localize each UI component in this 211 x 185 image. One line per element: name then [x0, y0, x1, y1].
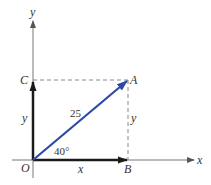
y-axis-label: y	[29, 5, 36, 19]
point-o-label: O	[21, 161, 30, 175]
point-c-label: C	[20, 73, 29, 87]
point-a-label: A	[129, 73, 138, 87]
point-b-label: B	[124, 162, 132, 176]
resultant-vector	[33, 81, 127, 160]
y-component-label-left: y	[21, 111, 28, 125]
x-axis-label: x	[196, 153, 203, 167]
vector-diagram: y x C A O B y y x 25 40°	[0, 0, 211, 185]
x-component-label: x	[77, 162, 84, 176]
y-component-label-right: y	[130, 111, 137, 125]
angle-label: 40°	[54, 145, 69, 157]
magnitude-label: 25	[70, 107, 82, 119]
